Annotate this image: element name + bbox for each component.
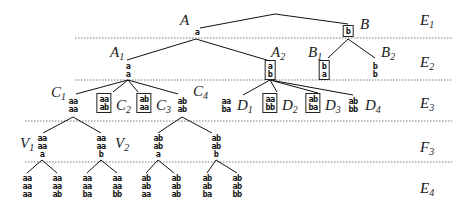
node-label-b2: B2 (381, 45, 395, 62)
node-label-c4: C4 (193, 84, 208, 101)
node-d2: aabb (262, 93, 277, 113)
level-label-f3: F3 (420, 140, 434, 157)
leaf-4: aaaabb (112, 174, 121, 198)
node-b2: bb (373, 62, 378, 78)
node-c1: aaaa (68, 97, 77, 113)
node-c2: aaab (96, 93, 111, 113)
node-a1: aa (126, 62, 131, 78)
game-tree-diagram: E1 E2 E3 F3 E4 A B A1 A2 B1 B2 C1 C2 C3 … (0, 0, 469, 215)
node-label-v2: V2 (115, 136, 129, 153)
node-label-d1: D1 (237, 98, 253, 115)
node-label-d2: D2 (282, 98, 298, 115)
node-label-c2: C2 (116, 98, 131, 115)
node-c3: abaa (136, 93, 151, 113)
node-label-c1: C1 (51, 85, 66, 102)
leaf-8: ababbb (232, 174, 241, 198)
level-label-e2: E2 (420, 55, 434, 72)
node-label-a1: A1 (110, 45, 124, 62)
node-c4: abab (177, 97, 186, 113)
node-b: b (343, 25, 354, 37)
node-label-c3: C3 (156, 98, 171, 115)
node-label-d3: D3 (325, 98, 341, 115)
node-d1: aaba (221, 97, 230, 113)
node-a: a (195, 28, 200, 36)
leaf-3: aaaaba (82, 174, 91, 198)
level-label-e1: E1 (420, 13, 434, 30)
node-a2: ab (265, 60, 276, 80)
node-f3-left: ababa (153, 134, 162, 158)
node-label-a: A (180, 13, 189, 28)
node-v1: aaaaa (37, 134, 46, 158)
node-label-v1: V1 (20, 136, 34, 153)
level-label-e4: E4 (420, 181, 434, 198)
leaf-7: ababba (202, 174, 211, 198)
node-b1: ba (319, 60, 330, 80)
node-d3: abba (305, 93, 320, 113)
node-f3-right: ababb (211, 134, 220, 158)
leaf-2: aaaaab (52, 174, 61, 198)
node-label-b: B (360, 17, 369, 32)
node-label-d4: D4 (365, 98, 381, 115)
level-label-e3: E3 (420, 96, 434, 113)
leaf-1: aaaaaa (22, 174, 31, 198)
node-v2: aaaab (96, 134, 105, 158)
node-d4: abbb (348, 97, 357, 113)
leaf-6: ababab (171, 174, 180, 198)
leaf-5: ababaa (141, 174, 150, 198)
